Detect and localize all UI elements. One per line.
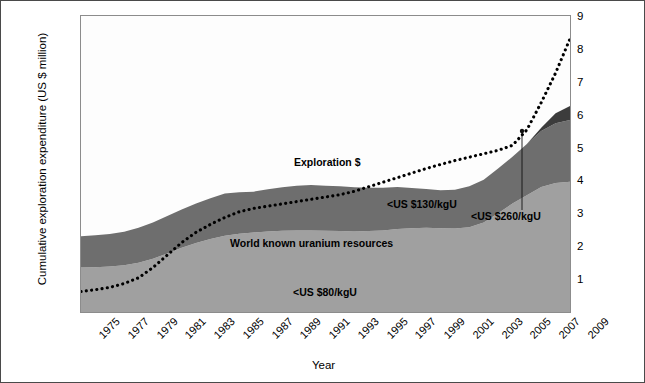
x-tick-label: 1983 — [211, 315, 237, 341]
x-tick-label: 2009 — [585, 315, 611, 341]
chart-annotation-label: <US $260/kgU — [471, 210, 541, 222]
x-tick-label: 1975 — [96, 315, 122, 341]
x-tick-label: 1989 — [298, 315, 324, 341]
y-tick-label-right: 5 — [577, 142, 597, 154]
x-tick-label: 1985 — [240, 315, 266, 341]
chart-annotation-label: Exploration $ — [294, 156, 361, 168]
x-tick-label: 1995 — [384, 315, 410, 341]
x-tick-label: 1979 — [154, 315, 180, 341]
y-tick-label-right: 6 — [577, 109, 597, 121]
x-tick-label: 1981 — [182, 315, 208, 341]
x-tick-label: 1977 — [125, 315, 151, 341]
x-tick-label: 1987 — [269, 315, 295, 341]
y-tick-label-right: 2 — [577, 240, 597, 252]
x-axis-title: Year — [1, 359, 645, 371]
chart-annotation-label: <US $80/kgU — [293, 286, 357, 298]
x-tick-label: 2003 — [499, 315, 525, 341]
y-tick-label-right: 3 — [577, 207, 597, 219]
x-tick-label: 1997 — [413, 315, 439, 341]
x-tick-label: 1993 — [355, 315, 381, 341]
chart-annotation-label: World known uranium resources — [230, 237, 393, 249]
chart-annotation-label: <US $130/kgU — [387, 198, 457, 210]
y-tick-label-right: 8 — [577, 43, 597, 55]
leader-endpoint-dot — [520, 129, 524, 133]
x-tick-label: 2007 — [556, 315, 582, 341]
y-tick-label-right: 9 — [577, 10, 597, 22]
y-tick-label-right: 4 — [577, 174, 597, 186]
chart-figure: Cumulative exploration expenditure (US $… — [0, 0, 645, 383]
y-tick-label-right: 7 — [577, 76, 597, 88]
x-tick-label: 1999 — [441, 315, 467, 341]
x-tick-label: 2001 — [470, 315, 496, 341]
y-tick-label-right: 1 — [577, 273, 597, 285]
x-tick-label: 1991 — [326, 315, 352, 341]
y-axis-left-title: Cumulative exploration expenditure (US $… — [36, 14, 48, 304]
x-tick-label: 2005 — [528, 315, 554, 341]
